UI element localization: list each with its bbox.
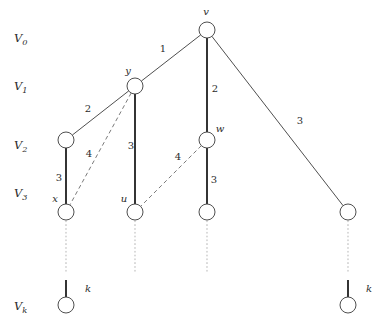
diagram-canvas: 123234334kk vywxu V0V1V2V3Vk — [0, 0, 376, 326]
graph-edge-y-x — [70, 93, 131, 205]
edge-weight-label: 3 — [211, 174, 217, 185]
graph-node-x — [58, 204, 74, 220]
graph-edge-v-c3 — [212, 36, 343, 205]
edge-weight-label: 4 — [86, 148, 92, 159]
level-label-Vk: Vk — [14, 299, 27, 315]
level-label-V2: V2 — [14, 138, 28, 154]
graph-edge-v-y — [141, 35, 200, 81]
graph-node-v — [199, 22, 215, 38]
continuation-k-label: k — [85, 283, 91, 294]
edge-weight-label: 2 — [85, 103, 91, 114]
graph-node-y — [127, 78, 143, 94]
layered-graph-svg: 123234334kk vywxu V0V1V2V3Vk — [0, 0, 376, 326]
graph-node-u — [127, 204, 143, 220]
edge-weight-labels: 123234334kk — [56, 43, 372, 294]
level-axis-labels: V0V1V2V3Vk — [14, 31, 28, 315]
node-label-u: u — [121, 193, 127, 204]
node-name-labels: vywxu — [52, 6, 225, 204]
level-label-V0: V0 — [14, 31, 28, 47]
edge-weight-label: 2 — [212, 83, 218, 94]
edge-weight-label: 3 — [128, 140, 134, 151]
level-label-V1: V1 — [14, 79, 28, 95]
node-label-v: v — [203, 6, 209, 17]
graph-node — [340, 204, 356, 220]
level-label-V3: V3 — [14, 186, 28, 202]
node-label-x: x — [52, 193, 58, 204]
node-label-y: y — [124, 65, 131, 76]
edge-weight-label: 3 — [56, 172, 62, 183]
graph-node — [58, 297, 74, 313]
edge-weight-label: 1 — [160, 43, 166, 54]
graph-node — [340, 297, 356, 313]
edge-weight-label: 3 — [297, 115, 303, 126]
graph-node — [199, 204, 215, 220]
node-label-w: w — [216, 123, 225, 134]
edge-weight-label: 4 — [175, 151, 181, 162]
continuation-dotted-lines — [66, 221, 348, 297]
graph-node-w — [199, 132, 215, 148]
continuation-k-label: k — [366, 283, 372, 294]
graph-edge-w-u — [141, 146, 202, 207]
graph-node — [58, 132, 74, 148]
